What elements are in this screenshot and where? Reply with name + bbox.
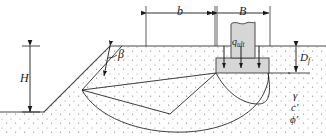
label-unit-weight: γ — [293, 90, 297, 101]
bearing-capacity-diagram — [0, 0, 326, 136]
label-Df-main: D — [300, 51, 308, 63]
label-H: H — [20, 72, 29, 84]
label-Df: Df — [300, 52, 310, 65]
label-friction-angle: ϕ′ — [290, 114, 298, 125]
label-Df-sub: f — [308, 56, 310, 65]
figure-canvas: b B H β Df qult γ c′ ϕ′ — [0, 0, 326, 136]
label-b: b — [177, 5, 183, 17]
label-B: B — [239, 5, 246, 17]
label-cohesion-prime: ′ — [296, 101, 298, 113]
soil-mass — [0, 46, 326, 136]
label-friction-prime: ′ — [296, 113, 298, 125]
label-qult-sub: ult — [237, 41, 245, 49]
label-cohesion: c′ — [291, 102, 298, 113]
label-qult: qult — [232, 37, 245, 49]
label-beta: β — [118, 48, 124, 60]
soil-fill — [0, 46, 326, 136]
